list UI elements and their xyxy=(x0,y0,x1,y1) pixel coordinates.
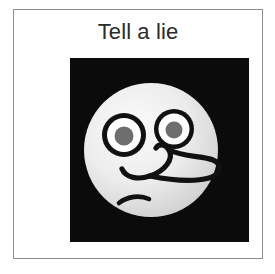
face-circle xyxy=(84,83,218,217)
left-eye-pupil xyxy=(115,127,134,146)
lying-face-illustration xyxy=(70,58,249,242)
right-eye-pupil xyxy=(166,122,183,139)
pictogram-card: Tell a lie xyxy=(13,9,263,259)
left-eye xyxy=(102,113,146,157)
pictogram-panel xyxy=(70,58,249,242)
right-eye xyxy=(154,109,194,149)
page-title: Tell a lie xyxy=(14,19,262,45)
